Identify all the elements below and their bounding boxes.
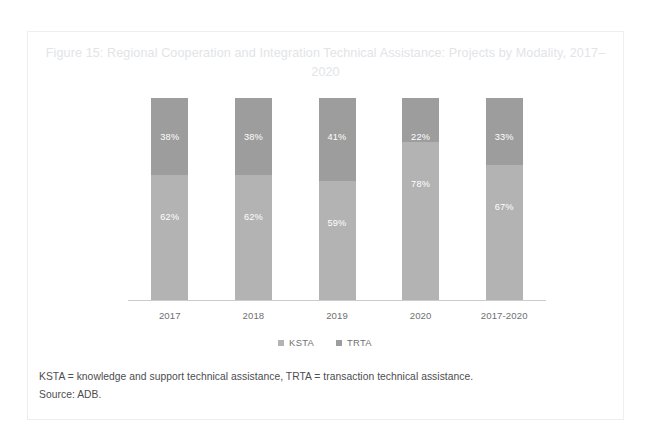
footnote-abbreviations: KSTA = knowledge and support technical a… [39,368,599,386]
figure-title: Figure 15: Regional Cooperation and Inte… [38,44,613,82]
x-axis-tick-2017-2020: 2017-2020 [454,310,554,321]
legend-label-trta: TRTA [347,337,372,348]
bar-segment-trta-2020[interactable]: 22% [402,98,439,142]
x-axis-line [128,300,546,301]
figure-container: Figure 15: Regional Cooperation and Inte… [0,0,650,442]
bar-label-ksta-2017-2020: 67% [486,202,523,212]
bar-label-ksta-2019: 59% [319,218,356,228]
bar-label-trta-2019: 41% [319,132,356,142]
bar-segment-ksta-2019[interactable]: 59% [319,181,356,300]
bar-segment-trta-2018[interactable]: 38% [235,98,272,175]
figure-footnotes: KSTA = knowledge and support technical a… [39,368,599,404]
bar-segment-ksta-2017-2020[interactable]: 67% [486,165,523,300]
bar-segment-trta-2019[interactable]: 41% [319,98,356,181]
legend-item-ksta[interactable]: KSTA [278,337,314,348]
bar-segment-ksta-2018[interactable]: 62% [235,175,272,300]
legend-swatch-trta-icon [336,340,342,346]
bar-label-trta-2017: 38% [151,132,188,142]
chart-plot-area: 38%62%38%62%41%59%22%78%33%67% [128,98,546,300]
bar-label-trta-2020: 22% [402,132,439,142]
bar-label-ksta-2017: 62% [151,212,188,222]
bar-segment-trta-2017-2020[interactable]: 33% [486,98,523,165]
bar-segment-ksta-2020[interactable]: 78% [402,142,439,300]
bar-label-trta-2018: 38% [235,132,272,142]
bar-label-ksta-2018: 62% [235,212,272,222]
bar-segment-ksta-2017[interactable]: 62% [151,175,188,300]
bar-2019[interactable]: 41%59% [319,98,356,300]
bar-2017-2020[interactable]: 33%67% [486,98,523,300]
bar-label-trta-2017-2020: 33% [486,132,523,142]
bar-segment-trta-2017[interactable]: 38% [151,98,188,175]
bar-2020[interactable]: 22%78% [402,98,439,300]
bar-label-ksta-2020: 78% [402,179,439,189]
legend-item-trta[interactable]: TRTA [336,337,372,348]
chart-legend: KSTATRTA [0,337,650,348]
bar-2017[interactable]: 38%62% [151,98,188,300]
legend-swatch-ksta-icon [278,340,284,346]
bar-2018[interactable]: 38%62% [235,98,272,300]
footnote-source: Source: ADB. [39,386,599,404]
legend-label-ksta: KSTA [289,337,314,348]
